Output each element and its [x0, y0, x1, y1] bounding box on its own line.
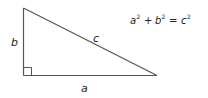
label-c: c [93, 32, 99, 45]
eq-plus: + [144, 15, 152, 26]
eq-b: b [155, 15, 161, 26]
pythagorean-diagram: b c a a 2 + b 2 = c 2 [0, 0, 208, 98]
label-b: b [11, 36, 18, 49]
right-angle-marker [24, 68, 32, 76]
label-a: a [81, 82, 88, 95]
eq-a-exp: 2 [137, 13, 141, 20]
eq-a: a [130, 15, 136, 26]
eq-b-exp: 2 [162, 13, 166, 20]
equation: a 2 + b 2 = c 2 [130, 13, 191, 26]
eq-equals: = [169, 15, 177, 26]
eq-c-exp: 2 [187, 13, 191, 20]
